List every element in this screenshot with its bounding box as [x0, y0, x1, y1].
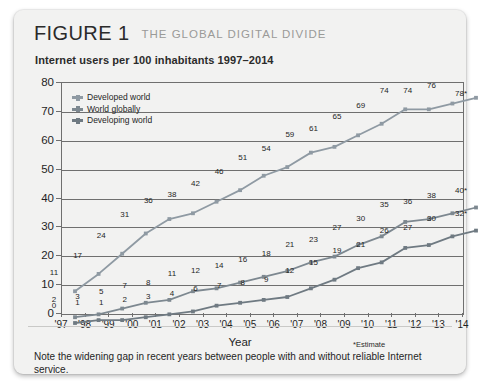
data-label: 7 — [217, 280, 221, 289]
y-axis-tick — [56, 284, 61, 285]
y-axis-tick — [56, 198, 61, 199]
figure-title: THE GLOBAL DIGITAL DIVIDE — [141, 28, 326, 40]
data-label: 74 — [380, 86, 389, 95]
data-label: 61 — [309, 123, 318, 132]
legend-item-label: Developing world — [87, 115, 152, 127]
x-axis-tick-label: '14 — [455, 319, 468, 330]
data-label: 15 — [309, 257, 318, 266]
x-axis-tick-label: '09 — [338, 319, 351, 330]
x-axis-tick — [320, 313, 321, 317]
data-label: 51 — [238, 152, 247, 161]
grid-line — [62, 141, 463, 142]
data-point-marker — [97, 318, 101, 322]
x-axis-tick — [61, 313, 62, 317]
y-axis-tick-label: 80 — [18, 76, 54, 88]
x-axis-tick — [108, 313, 109, 317]
data-label: 11 — [50, 268, 58, 277]
chart-subtitle: Internet users per 100 inhabitants 1997–… — [35, 54, 274, 66]
y-axis-tick-label: 0 — [18, 307, 54, 319]
x-axis-tick — [155, 313, 156, 317]
x-axis-tick-label: '03 — [196, 319, 209, 330]
data-point-marker — [120, 318, 124, 322]
y-axis-tick-label: 60 — [18, 134, 54, 146]
legend-swatch-icon — [72, 108, 83, 111]
data-point-marker — [73, 315, 77, 319]
x-axis-tick — [391, 313, 392, 317]
x-axis-tick-label: '13 — [432, 319, 445, 330]
x-axis-tick-label: '06 — [267, 319, 280, 330]
data-label: 59 — [285, 129, 294, 138]
x-axis-tick — [462, 313, 463, 317]
x-axis-tick-label: '04 — [220, 319, 233, 330]
data-point-marker — [73, 321, 77, 325]
x-axis-tick-label: '00 — [125, 319, 138, 330]
data-label: 32* — [455, 208, 467, 217]
data-label: 7 — [123, 280, 127, 289]
data-label: 76 — [427, 80, 436, 89]
x-axis-tick — [85, 313, 86, 317]
grid-line — [62, 170, 463, 171]
x-axis-tick-label: '05 — [243, 319, 256, 330]
y-axis-tick-label: 20 — [18, 249, 54, 261]
y-axis-tick-label: 10 — [18, 278, 54, 290]
x-axis-title: Year — [14, 336, 466, 348]
data-label: 27 — [403, 223, 412, 232]
legend-item-developing-world[interactable]: Developing world — [72, 115, 152, 127]
data-label: 5 — [99, 286, 103, 295]
x-axis-tick — [226, 313, 227, 317]
data-label: 24 — [97, 230, 106, 239]
estimate-note: *Estimate — [353, 340, 385, 349]
y-axis-tick-label: 40 — [18, 192, 54, 204]
data-label: 3 — [146, 292, 150, 301]
legend-item-world-globally[interactable]: World globally — [72, 104, 152, 116]
data-label: 12 — [191, 266, 200, 275]
legend-item-label: Developed world — [87, 92, 150, 104]
x-axis-tick — [250, 313, 251, 317]
data-label: 14 — [215, 260, 224, 269]
data-label: 38 — [427, 191, 436, 200]
x-axis-tick — [368, 313, 369, 317]
chart-legend: Developed worldWorld globallyDeveloping … — [72, 92, 152, 127]
legend-swatch-icon — [72, 96, 83, 99]
data-label: 40* — [455, 185, 467, 194]
x-axis-tick — [438, 313, 439, 317]
data-label: 12 — [285, 266, 294, 275]
data-label: 65 — [333, 112, 342, 121]
data-label: 54 — [262, 144, 271, 153]
data-label: 8 — [146, 277, 150, 286]
data-label: 21 — [356, 240, 365, 249]
figure-number: FIGURE 1 — [34, 22, 129, 45]
data-label: 69 — [356, 100, 365, 109]
data-label: 23 — [309, 234, 318, 243]
x-axis-tick-label: '02 — [172, 319, 185, 330]
y-axis-tick — [56, 111, 61, 112]
data-label: 2 — [123, 295, 127, 304]
data-label: 19 — [333, 246, 342, 255]
x-axis-tick-label: '01 — [149, 319, 162, 330]
y-axis-tick-label: 30 — [18, 220, 54, 232]
data-label: 74 — [403, 86, 412, 95]
data-point-marker — [474, 96, 478, 100]
footer-divider — [28, 326, 452, 327]
x-axis-tick-label: '99 — [102, 319, 115, 330]
data-label: 0 — [52, 301, 56, 310]
y-axis-tick-label: 70 — [18, 105, 54, 117]
data-label: 30 — [356, 214, 365, 223]
data-point-marker — [144, 315, 148, 319]
x-axis-tick — [297, 313, 298, 317]
data-point-marker — [474, 206, 478, 210]
figure-header: FIGURE 1 THE GLOBAL DIGITAL DIVIDE — [34, 22, 452, 52]
figure-card: FIGURE 1 THE GLOBAL DIGITAL DIVIDE Inter… — [14, 10, 466, 374]
legend-item-developed-world[interactable]: Developed world — [72, 92, 152, 104]
data-label: 26 — [380, 225, 389, 234]
data-label: 42 — [191, 178, 200, 187]
data-label: 6 — [193, 283, 197, 292]
x-axis-tick — [132, 313, 133, 317]
data-label: 46 — [215, 167, 224, 176]
x-axis-tick — [273, 313, 274, 317]
data-label: 38 — [167, 190, 176, 199]
data-label: 36 — [403, 197, 412, 206]
data-label: 8 — [240, 277, 244, 286]
data-label: 1 — [99, 298, 103, 307]
data-label: 36 — [144, 196, 153, 205]
